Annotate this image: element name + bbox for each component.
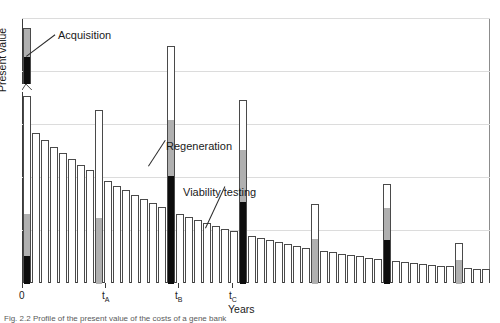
segment-maintenance	[60, 154, 66, 284]
segment-maintenance	[213, 227, 219, 284]
bar-39	[374, 259, 382, 283]
segment-maintenance	[69, 160, 75, 284]
bar-38	[365, 258, 373, 283]
segment-maintenance	[114, 187, 120, 284]
bar-31	[302, 248, 310, 283]
bar-42	[401, 262, 409, 283]
y-axis-label: Present value	[0, 28, 8, 92]
segment-maintenance	[150, 204, 156, 284]
segment-maintenance	[258, 239, 264, 284]
bar-45	[428, 265, 436, 283]
bar-35	[338, 254, 346, 283]
segment-maintenance	[483, 270, 489, 284]
segment-maintenance	[195, 221, 201, 284]
bar-12	[131, 195, 139, 283]
segment-maintenance	[204, 224, 210, 284]
segment-maintenance	[339, 255, 345, 284]
segment-maintenance	[465, 269, 471, 284]
segment-maintenance	[177, 215, 183, 284]
x-tick-0	[22, 283, 23, 288]
segment-maintenance	[330, 253, 336, 284]
segment-maintenance	[375, 260, 381, 284]
bar-22	[221, 229, 229, 283]
segment-maintenance	[438, 267, 444, 284]
segment-maintenance	[348, 256, 354, 284]
segment-maintenance	[429, 266, 435, 284]
bar-19	[194, 220, 202, 283]
segment-maintenance	[186, 218, 192, 284]
bar-1	[32, 133, 40, 283]
segment-maintenance	[285, 245, 291, 284]
segment-viability-testing	[96, 218, 102, 284]
bar-28	[275, 242, 283, 283]
segment-maintenance	[141, 200, 147, 284]
segment-maintenance	[123, 191, 129, 284]
segment-maintenance	[24, 97, 30, 214]
bar-14	[149, 203, 157, 283]
bar-9	[104, 181, 112, 283]
segment-maintenance	[474, 270, 480, 284]
segment-maintenance	[393, 262, 399, 284]
segment-maintenance	[357, 257, 363, 284]
bar-7	[86, 170, 94, 283]
segment-maintenance	[447, 267, 453, 284]
segment-maintenance	[33, 134, 39, 284]
segment-maintenance	[105, 182, 111, 284]
bar-3	[50, 147, 58, 283]
segment-acquisition-cost	[24, 57, 30, 85]
segment-regeneration	[168, 176, 174, 284]
segment-regeneration	[384, 240, 390, 284]
bar-36	[347, 255, 355, 283]
bar-51	[482, 269, 490, 283]
x-tick-label-0: 0	[19, 290, 25, 301]
bar-47	[446, 266, 454, 283]
x-tick-label-2: tB	[175, 290, 182, 303]
bar-27	[266, 240, 274, 283]
bar-34	[329, 252, 337, 283]
segment-maintenance	[294, 247, 300, 284]
bar-48	[455, 243, 463, 283]
bar-30	[293, 246, 301, 283]
plot-area	[22, 18, 490, 283]
segment-maintenance	[132, 196, 138, 284]
bar-44	[419, 264, 427, 283]
x-tick-1	[105, 283, 106, 288]
bar-23	[230, 231, 238, 283]
annotation-regeneration: Regeneration	[166, 140, 232, 152]
bar-25	[248, 236, 256, 283]
segment-maintenance	[456, 244, 462, 260]
segment-maintenance	[51, 148, 57, 284]
bar-16	[167, 46, 175, 283]
bar-43	[410, 263, 418, 283]
segment-maintenance	[420, 265, 426, 284]
segment-maintenance	[276, 243, 282, 284]
bar-2	[41, 140, 49, 283]
bar-15	[158, 207, 166, 283]
segment-regeneration	[240, 202, 246, 284]
segment-maintenance	[384, 185, 390, 208]
segment-maintenance	[222, 230, 228, 284]
segment-maintenance	[402, 263, 408, 284]
segment-maintenance	[231, 232, 237, 284]
bar-13	[140, 199, 148, 283]
segment-maintenance	[411, 264, 417, 284]
segment-maintenance	[303, 249, 309, 284]
bar-49	[464, 268, 472, 283]
bar-18	[185, 217, 193, 283]
segment-maintenance	[78, 166, 84, 284]
segment-maintenance	[96, 111, 102, 218]
annotation-acquisition: Acquisition	[58, 29, 111, 41]
bar-6	[77, 165, 85, 283]
segment-viability-testing	[24, 214, 30, 256]
bar-37	[356, 256, 364, 283]
bar-4	[59, 153, 67, 283]
segment-maintenance	[321, 252, 327, 284]
bar-17	[176, 214, 184, 283]
segment-maintenance	[168, 47, 174, 120]
bar-29	[284, 244, 292, 283]
segment-maintenance	[366, 259, 372, 284]
gridline	[22, 71, 490, 72]
segment-maintenance	[267, 241, 273, 284]
bar-5	[68, 159, 76, 283]
